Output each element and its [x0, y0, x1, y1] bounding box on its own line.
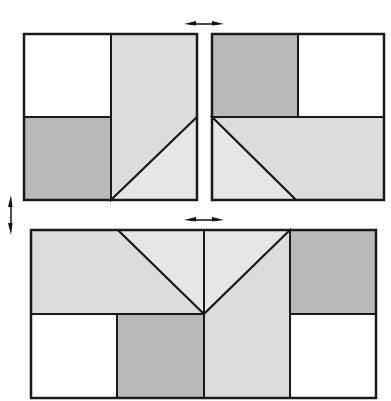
top-left-panel — [24, 34, 197, 200]
white-square — [298, 34, 384, 117]
dark-square-right — [290, 230, 376, 314]
white-square-right — [290, 314, 376, 398]
top-right-panel — [212, 34, 384, 200]
vertical-double-arrow-left-icon — [8, 195, 13, 235]
dark-square — [212, 34, 298, 117]
dark-square-mid — [117, 314, 204, 398]
tiling-diagram — [0, 0, 391, 401]
horizontal-double-arrow-top-icon — [184, 21, 224, 26]
horizontal-double-arrow-middle-icon — [184, 217, 224, 222]
white-square — [24, 34, 111, 117]
bottom-panel — [31, 230, 376, 398]
diagram-canvas — [0, 0, 391, 401]
dark-square — [24, 117, 111, 200]
white-square-left — [31, 314, 117, 398]
panels-layer — [24, 34, 384, 398]
